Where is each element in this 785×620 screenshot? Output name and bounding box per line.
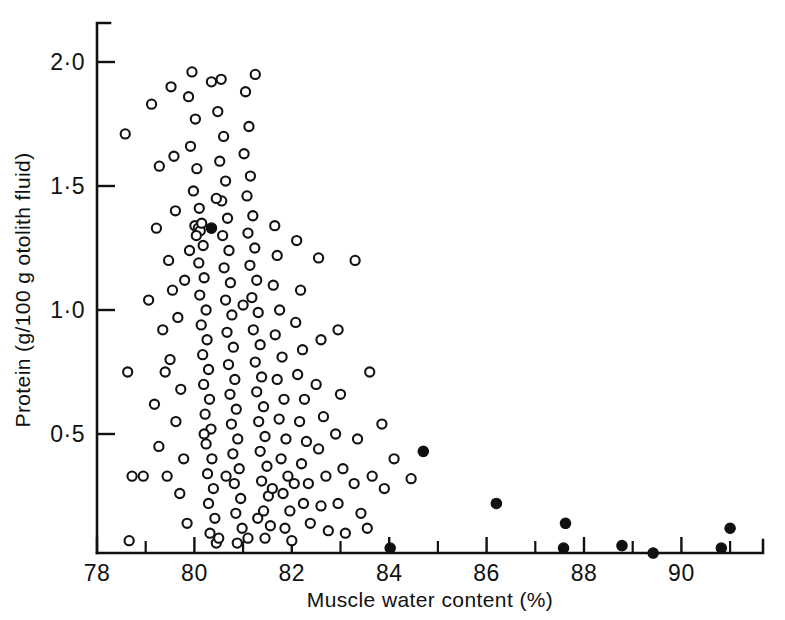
data-point-open: [244, 122, 253, 131]
data-point-open: [123, 367, 132, 376]
data-point-open: [270, 221, 279, 230]
data-point-filled: [716, 543, 726, 553]
data-point-filled: [491, 498, 501, 508]
data-point-open: [168, 286, 177, 295]
data-point-open: [200, 429, 209, 438]
data-point-open: [227, 419, 236, 428]
data-point-open: [245, 261, 254, 270]
data-point-open: [368, 472, 377, 481]
data-point-open: [195, 291, 204, 300]
x-axis-line: [97, 540, 763, 553]
data-point-open: [221, 295, 230, 304]
data-point-open: [192, 231, 201, 240]
data-point-open: [236, 494, 245, 503]
data-point-open: [363, 524, 372, 533]
data-point-open: [176, 385, 185, 394]
data-point-open: [233, 434, 242, 443]
x-tick-label: 82: [279, 560, 306, 586]
data-point-open: [260, 432, 269, 441]
y-axis-title: Protein (g/100 g otolith fluid): [11, 152, 34, 427]
data-point-open: [186, 142, 195, 151]
y-tick-label: 2·0: [50, 49, 85, 75]
data-point-open: [324, 526, 333, 535]
data-point-filled: [558, 543, 568, 553]
data-point-open: [287, 536, 296, 545]
data-point-open: [239, 300, 248, 309]
scatter-plot-canvas: 0·51·01·52·0 78808284868890 Muscle water…: [0, 0, 785, 620]
data-point-filled: [206, 223, 216, 233]
data-point-open: [212, 194, 221, 203]
data-point-open: [316, 501, 325, 510]
data-point-open: [275, 305, 284, 314]
y-tick-label: 0·5: [50, 421, 85, 447]
data-point-open: [225, 390, 234, 399]
data-point-open: [338, 464, 347, 473]
data-point-open: [281, 434, 290, 443]
data-point-open: [356, 509, 365, 518]
data-point-open: [249, 325, 258, 334]
data-point-open: [407, 474, 416, 483]
data-point-open: [280, 524, 289, 533]
data-point-open: [207, 454, 216, 463]
data-point-open: [254, 308, 263, 317]
x-axis-title: Muscle water content (%): [307, 588, 554, 611]
data-point-open: [187, 67, 196, 76]
data-point-open: [233, 539, 242, 548]
data-point-open: [316, 335, 325, 344]
y-tick-label: 1·0: [50, 297, 85, 323]
data-point-open: [257, 372, 266, 381]
data-point-filled: [418, 446, 428, 456]
data-point-open: [314, 444, 323, 453]
data-point-open: [201, 305, 210, 314]
data-point-open: [304, 479, 313, 488]
data-point-open: [166, 82, 175, 91]
data-point-open: [205, 529, 214, 538]
data-point-open: [248, 211, 257, 220]
data-point-open: [331, 429, 340, 438]
data-point-open: [144, 295, 153, 304]
x-tick-label: 80: [181, 560, 208, 586]
data-point-filled: [560, 518, 570, 528]
data-point-open: [275, 415, 284, 424]
data-point-open: [165, 355, 174, 364]
data-point-open: [252, 276, 261, 285]
data-point-open: [205, 395, 214, 404]
data-point-open: [292, 236, 301, 245]
data-point-open: [269, 281, 278, 290]
data-point-open: [277, 353, 286, 362]
data-point-open: [250, 243, 259, 252]
data-point-open: [194, 258, 203, 267]
data-point-open: [297, 459, 306, 468]
data-point-open: [224, 360, 233, 369]
data-point-open: [164, 256, 173, 265]
data-point-open: [260, 534, 269, 543]
data-point-open: [198, 350, 207, 359]
data-point-open: [175, 489, 184, 498]
data-point-open: [184, 92, 193, 101]
data-point-open: [217, 75, 226, 84]
data-point-open: [321, 472, 330, 481]
data-point-open: [333, 325, 342, 334]
data-point-open: [185, 246, 194, 255]
data-point-open: [226, 278, 235, 287]
data-point-open: [295, 417, 304, 426]
data-point-open: [285, 506, 294, 515]
scatter-plot-figure: 0·51·01·52·0 78808284868890 Muscle water…: [0, 0, 785, 620]
data-point-open: [199, 241, 208, 250]
data-point-filled: [385, 543, 395, 553]
data-point-open: [152, 224, 161, 233]
data-point-open: [192, 164, 201, 173]
data-point-open: [351, 256, 360, 265]
data-point-open: [221, 176, 230, 185]
y-axis-tick-labels: 0·51·01·52·0: [50, 49, 85, 447]
data-point-open: [243, 534, 252, 543]
data-point-open: [293, 370, 302, 379]
data-point-open: [230, 479, 239, 488]
data-point-open: [278, 489, 287, 498]
data-point-open: [239, 149, 248, 158]
data-point-open: [199, 380, 208, 389]
data-point-open: [171, 206, 180, 215]
data-point-open: [259, 402, 268, 411]
data-point-open: [276, 454, 285, 463]
data-point-open: [200, 273, 209, 282]
